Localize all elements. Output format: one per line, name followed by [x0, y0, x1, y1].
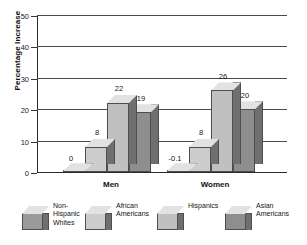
y-axis-tick-label: 50 [21, 12, 29, 21]
bar-side-face [151, 104, 159, 164]
y-axis-tick-label: 20 [21, 106, 29, 115]
legend-label: Asian Americans [256, 202, 289, 219]
y-axis-tick-label: 30 [21, 74, 29, 83]
legend-label: Hispanics [188, 202, 218, 210]
legend-label: African Americans [116, 202, 149, 219]
cube-front-face [22, 213, 43, 230]
bar-value-label: 22 [115, 84, 123, 93]
bar-value-label: 8 [95, 128, 99, 137]
y-axis-tick-label: 10 [21, 137, 29, 146]
legend-swatch-cube-icon [85, 206, 112, 230]
bar-group: 082219 [63, 15, 159, 172]
cube-front-face [157, 213, 178, 230]
bar-value-label: 19 [137, 94, 145, 103]
y-axis-tick [31, 16, 37, 17]
y-axis-tick [31, 110, 37, 111]
bar-value-label: 0 [69, 154, 73, 163]
legend-label: Non- Hispanic Whites [53, 202, 80, 227]
cube-side-face [105, 213, 112, 230]
cube-side-face [245, 213, 252, 230]
y-axis-tick-label: 0 [25, 169, 29, 178]
cube-side-face [42, 213, 49, 230]
bar-group: -0.182620 [167, 15, 263, 172]
legend-swatch-cube-icon [157, 206, 184, 230]
bar[interactable] [167, 164, 189, 172]
bar-side-face [129, 95, 137, 164]
y-axis-tick [31, 173, 37, 174]
bar-front-face [85, 147, 107, 172]
y-axis-tick [31, 79, 37, 80]
bar-front-face [189, 147, 211, 172]
y-axis-tick-label: 40 [21, 43, 29, 52]
gridline: 0 [37, 172, 287, 173]
cube-front-face [225, 213, 246, 230]
x-axis-group-label: Women [201, 180, 230, 189]
bar-value-label: -0.1 [169, 154, 182, 163]
cube-side-face [177, 213, 184, 230]
cube-front-face [85, 213, 106, 230]
legend-swatch-cube-icon [225, 206, 252, 230]
bar-value-label: 8 [199, 128, 203, 137]
bar-chart: Percentage Increase 50403020100 082219-0… [0, 0, 307, 245]
y-axis-line [37, 15, 38, 172]
chart-legend: Non- Hispanic WhitesAfrican AmericansHis… [22, 200, 297, 240]
bar-value-label: 26 [219, 72, 227, 81]
plot-area: 50403020100 082219-0.182620 [37, 15, 287, 172]
y-axis-tick [31, 47, 37, 48]
legend-swatch-cube-icon [22, 206, 49, 230]
y-axis-tick [31, 142, 37, 143]
bar[interactable] [63, 164, 85, 172]
bar-value-label: 20 [241, 91, 249, 100]
bar-side-face [233, 82, 241, 164]
bar-side-face [255, 101, 263, 164]
x-axis-group-label: Men [103, 180, 119, 189]
